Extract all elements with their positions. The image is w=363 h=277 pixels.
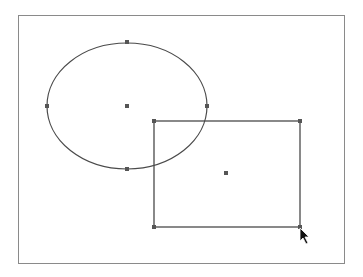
rect-handle-top-right[interactable] [298, 119, 302, 123]
mouse-pointer-icon [300, 228, 309, 244]
rect-handle-bottom-left[interactable] [152, 225, 156, 229]
ellipse-handle-left[interactable] [45, 104, 49, 108]
ellipse-handle-bottom[interactable] [125, 167, 129, 171]
drawing-layer[interactable] [0, 0, 363, 277]
rect-center-handle[interactable] [224, 171, 228, 175]
ellipse-handle-top[interactable] [125, 40, 129, 44]
ellipse-center-handle[interactable] [125, 104, 129, 108]
ellipse-handle-right[interactable] [205, 104, 209, 108]
rect-handle-top-left[interactable] [152, 119, 156, 123]
